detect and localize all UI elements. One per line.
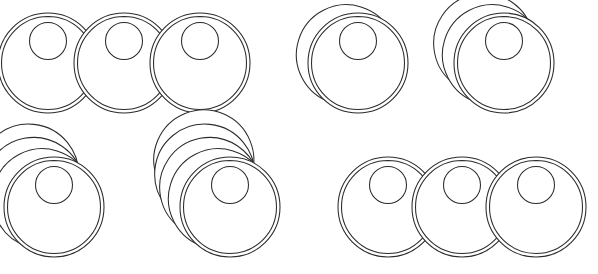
capsule-top-circle [30,23,67,60]
capsule-top-circle [518,167,555,204]
capsule-top-circle [106,23,143,60]
capsule-front [454,13,554,113]
capsule-top-circle [486,23,523,60]
shape-group-group-f [338,157,586,257]
capsule-unit [486,157,586,257]
capsule-top-circle [212,167,249,204]
capsule-top-circle [36,167,73,204]
capsule-figure-svg [0,0,598,274]
capsule-front [4,157,104,257]
capsule-unit [150,13,250,113]
capsule-top-circle [182,23,219,60]
capsule-top-circle [370,167,407,204]
capsule-top-circle [340,23,377,60]
shape-group-group-a [0,13,250,113]
capsule-front [150,13,250,113]
capsule-front [486,157,586,257]
capsule-top-circle [444,167,481,204]
capsule-front [308,13,408,113]
capsule-front [180,157,280,257]
figure-canvas [0,0,598,274]
